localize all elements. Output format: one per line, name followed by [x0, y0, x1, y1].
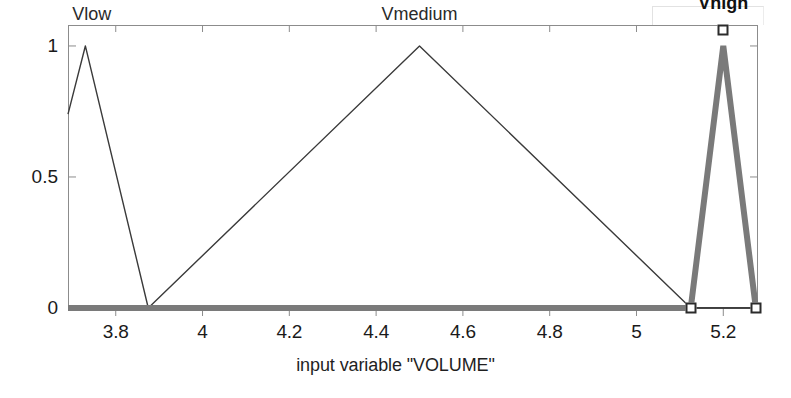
x-tick-label: 5.2 — [710, 321, 736, 343]
x-tick-label: 4 — [197, 321, 207, 343]
right-base-handle[interactable] — [750, 303, 761, 314]
left-base-handle[interactable] — [685, 303, 696, 314]
x-tick-label: 4.4 — [363, 321, 389, 343]
mf-label-vlow: Vlow — [72, 4, 111, 25]
x-tick-label: 4.6 — [450, 321, 476, 343]
plot-frame — [68, 25, 758, 308]
x-tick-label: 4.2 — [276, 321, 302, 343]
x-tick-label: 4.8 — [537, 321, 563, 343]
membership-function-plot-window: 3.844.24.44.64.855.2 00.51 VlowVmediumVh… — [0, 0, 791, 398]
x-axis-title: input variable "VOLUME" — [0, 355, 791, 376]
peak-handle[interactable] — [718, 25, 729, 36]
y-tick-label: 1 — [8, 35, 58, 57]
x-tick-label: 3.8 — [103, 321, 129, 343]
mf-label-vmedium: Vmedium — [381, 4, 457, 25]
y-tick-label: 0 — [8, 297, 58, 319]
x-tick-label: 5 — [631, 321, 641, 343]
mf-label-vhigh: Vhigh — [698, 0, 748, 14]
y-tick-label: 0.5 — [8, 166, 58, 188]
